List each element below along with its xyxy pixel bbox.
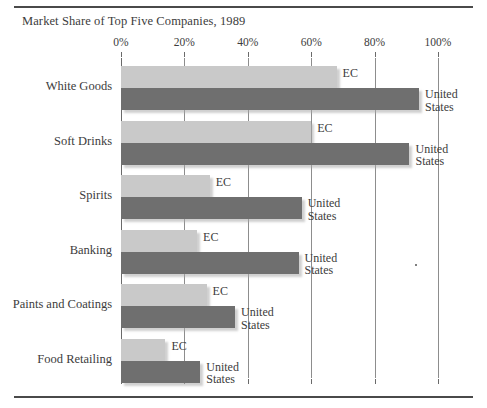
top-rule bbox=[14, 6, 473, 8]
bar-ec: EC bbox=[121, 121, 311, 143]
chart-title: Market Share of Top Five Companies, 1989 bbox=[22, 14, 245, 29]
series-label-united-states: UnitedStates bbox=[308, 197, 341, 223]
x-tick-label: 100% bbox=[425, 36, 452, 48]
bar-ec: EC bbox=[121, 230, 197, 252]
series-label-united-states: UnitedStates bbox=[415, 143, 448, 169]
x-tick-label: 80% bbox=[364, 36, 385, 48]
series-label-us-line1: United bbox=[308, 197, 341, 210]
series-label-us-line2: States bbox=[415, 155, 448, 168]
bar-ec: EC bbox=[121, 339, 165, 361]
chart-figure: Market Share of Top Five Companies, 1989… bbox=[0, 0, 487, 408]
series-label-us-line2: States bbox=[241, 319, 274, 332]
series-label-us-line2: States bbox=[308, 210, 341, 223]
series-label-us-line2: States bbox=[305, 264, 338, 277]
series-label-ec: EC bbox=[216, 176, 231, 189]
tick-mark-40-above bbox=[248, 52, 249, 57]
bar-ec: EC bbox=[121, 175, 210, 197]
series-label-united-states: UnitedStates bbox=[425, 88, 458, 114]
category-label: Soft Drinks bbox=[54, 134, 112, 149]
category-label: Food Retailing bbox=[37, 352, 112, 367]
category-group: Soft DrinksECUnitedStates bbox=[121, 121, 438, 165]
category-label: Spirits bbox=[79, 188, 112, 203]
category-group: SpiritsECUnitedStates bbox=[121, 175, 438, 219]
series-label-us-line1: United bbox=[425, 88, 458, 101]
bottom-rule bbox=[14, 396, 473, 398]
bar-ec: EC bbox=[121, 284, 207, 306]
x-tick-label: 0% bbox=[113, 36, 128, 48]
x-tick-label: 20% bbox=[174, 36, 195, 48]
series-label-ec: EC bbox=[317, 122, 332, 135]
bar-united-states: UnitedStates bbox=[121, 306, 235, 328]
series-label-ec: EC bbox=[213, 285, 228, 298]
bar-united-states: UnitedStates bbox=[121, 143, 409, 165]
bar-ec: EC bbox=[121, 66, 337, 88]
stray-mark bbox=[415, 264, 417, 266]
bar-united-states: UnitedStates bbox=[121, 197, 302, 219]
tick-mark-0-above bbox=[121, 52, 122, 57]
tick-mark-80-above bbox=[375, 52, 376, 57]
series-label-united-states: UnitedStates bbox=[305, 252, 338, 278]
series-label-ec: EC bbox=[343, 67, 358, 80]
bar-united-states: UnitedStates bbox=[121, 252, 299, 274]
plot-area: 0%20%40%60%80%100%White GoodsECUnitedSta… bbox=[121, 58, 438, 378]
tick-mark-20-above bbox=[184, 52, 185, 57]
series-label-us-line2: States bbox=[206, 373, 239, 386]
x-tick-label: 60% bbox=[301, 36, 322, 48]
category-group: Paints and CoatingsECUnitedStates bbox=[121, 284, 438, 328]
series-label-us-line2: States bbox=[425, 101, 458, 114]
category-group: White GoodsECUnitedStates bbox=[121, 66, 438, 110]
tick-mark-100-below bbox=[438, 379, 439, 384]
category-label: White Goods bbox=[46, 79, 112, 94]
category-label: Paints and Coatings bbox=[13, 297, 112, 312]
category-group: Food RetailingECUnitedStates bbox=[121, 339, 438, 383]
bar-united-states: UnitedStates bbox=[121, 361, 200, 383]
series-label-united-states: UnitedStates bbox=[206, 361, 239, 387]
tick-mark-60-above bbox=[311, 52, 312, 57]
series-label-united-states: UnitedStates bbox=[241, 306, 274, 332]
category-label: Banking bbox=[70, 243, 112, 258]
category-group: BankingECUnitedStates bbox=[121, 230, 438, 274]
series-label-ec: EC bbox=[203, 231, 218, 244]
x-tick-label: 40% bbox=[237, 36, 258, 48]
series-label-us-line1: United bbox=[241, 306, 274, 319]
bar-united-states: UnitedStates bbox=[121, 88, 419, 110]
tick-mark-100-above bbox=[438, 52, 439, 57]
series-label-ec: EC bbox=[171, 340, 186, 353]
